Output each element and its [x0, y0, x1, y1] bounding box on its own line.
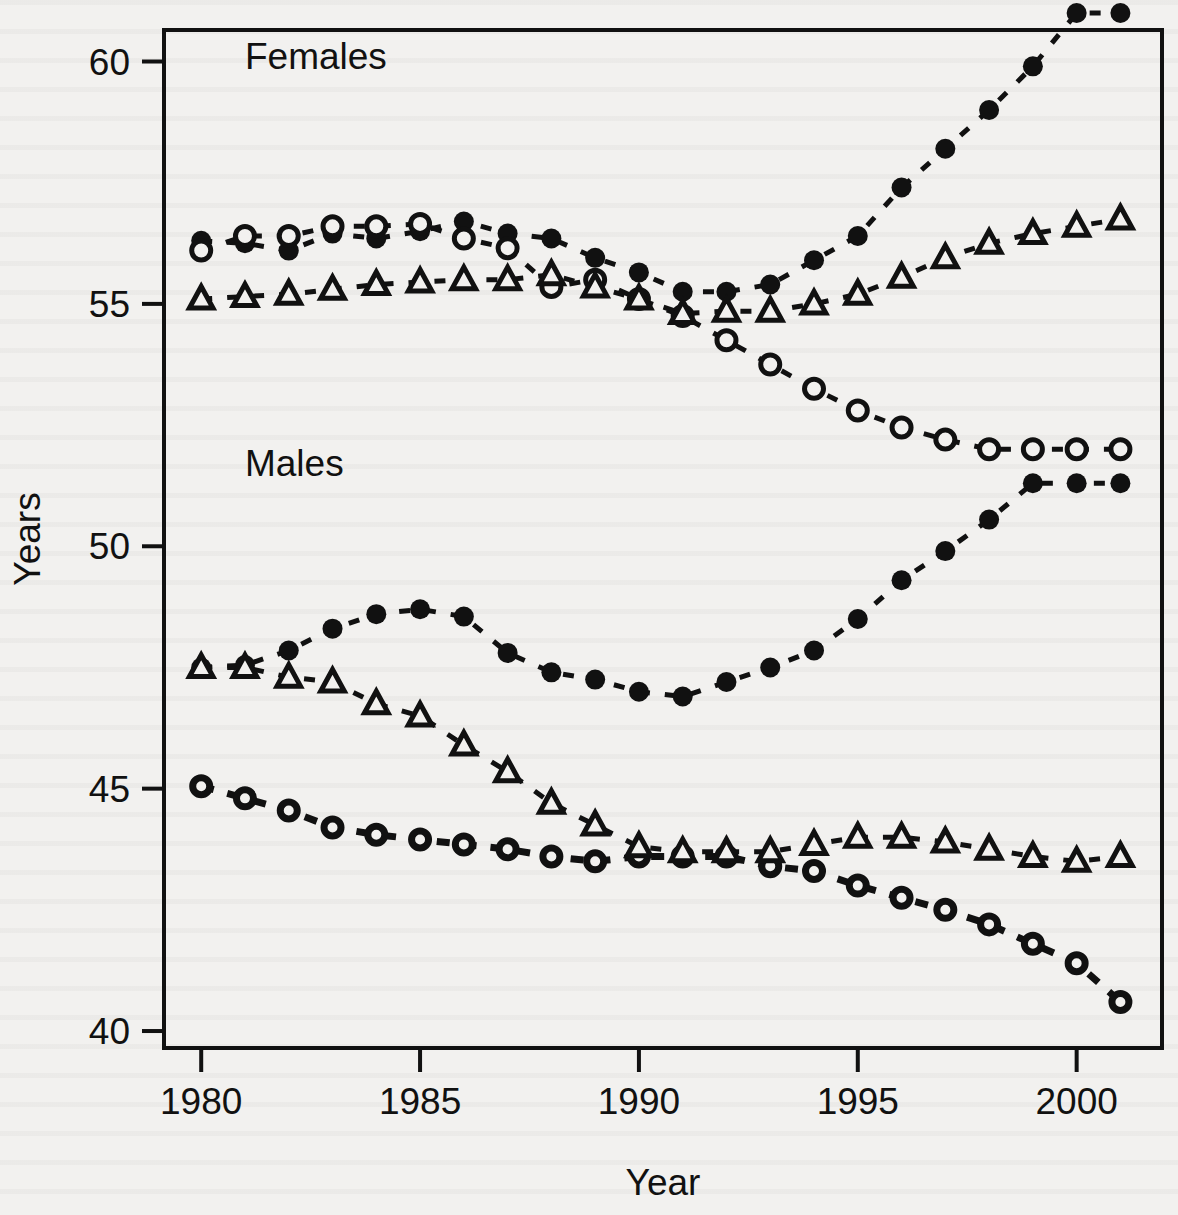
marker-filled-circle: [629, 262, 649, 282]
marker-filled-circle: [804, 250, 824, 270]
marker-open-circle: [235, 227, 254, 246]
marker-open-triangle: [1065, 214, 1089, 236]
marker-open-circle: [543, 848, 560, 865]
marker-filled-circle: [848, 609, 868, 629]
marker-open-circle: [499, 841, 516, 858]
marker-filled-circle: [848, 226, 868, 246]
marker-open-circle: [1023, 440, 1042, 459]
marker-open-triangle: [1109, 207, 1133, 229]
marker-open-triangle: [452, 733, 476, 755]
x-tick-label: 2000: [1035, 1081, 1117, 1122]
marker-filled-circle: [454, 607, 474, 627]
plot-frame: [164, 30, 1162, 1048]
marker-open-circle: [761, 355, 780, 374]
marker-open-triangle: [496, 267, 519, 289]
marker-open-circle: [980, 440, 999, 459]
marker-open-triangle: [758, 299, 782, 321]
marker-filled-circle: [979, 100, 999, 120]
marker-open-circle: [587, 853, 604, 870]
marker-open-circle: [1112, 993, 1129, 1010]
marker-filled-circle: [935, 541, 955, 561]
marker-open-circle: [1111, 440, 1130, 459]
marker-filled-circle: [585, 670, 605, 690]
marker-open-circle: [368, 826, 385, 843]
chart-canvas: 404550556019801985199019952000YearYearsF…: [0, 0, 1178, 1215]
y-tick-label: 40: [89, 1011, 130, 1052]
marker-filled-circle: [366, 604, 386, 624]
y-tick-label: 60: [89, 42, 130, 83]
marker-open-circle: [849, 877, 866, 894]
marker-open-circle: [806, 863, 823, 880]
marker-open-circle: [1067, 440, 1086, 459]
marker-open-circle: [892, 418, 911, 437]
marker-filled-circle: [935, 139, 955, 159]
marker-open-triangle: [496, 759, 519, 781]
marker-open-triangle: [1109, 844, 1133, 866]
marker-open-circle: [324, 819, 341, 836]
marker-open-circle: [411, 214, 430, 233]
marker-filled-circle: [1067, 3, 1087, 23]
marker-open-circle: [893, 889, 910, 906]
marker-filled-circle: [410, 599, 430, 619]
marker-open-triangle: [583, 813, 607, 835]
marker-open-circle: [848, 401, 867, 420]
marker-filled-circle: [979, 510, 999, 530]
marker-filled-circle: [541, 662, 561, 682]
marker-filled-circle: [279, 640, 299, 660]
x-axis-title: Year: [626, 1162, 701, 1203]
marker-filled-circle: [629, 682, 649, 702]
marker-open-triangle: [671, 301, 695, 323]
marker-open-circle: [1068, 955, 1085, 972]
marker-open-triangle: [452, 267, 476, 289]
marker-filled-circle: [760, 275, 780, 295]
marker-filled-circle: [1023, 473, 1043, 493]
series-5: [193, 778, 1129, 1011]
x-tick-label: 1995: [817, 1081, 899, 1122]
males-label: Males: [245, 443, 344, 484]
marker-filled-circle: [892, 570, 912, 590]
marker-open-triangle: [758, 839, 782, 861]
marker-filled-circle: [760, 657, 780, 677]
marker-open-triangle: [627, 287, 651, 309]
marker-open-circle: [937, 901, 954, 918]
marker-filled-circle: [1023, 56, 1043, 76]
marker-open-triangle: [627, 834, 651, 856]
marker-filled-circle: [1067, 473, 1087, 493]
marker-open-circle: [936, 430, 955, 449]
marker-filled-circle: [541, 228, 561, 248]
marker-open-triangle: [321, 277, 345, 299]
y-tick-label: 50: [89, 526, 130, 567]
marker-open-triangle: [540, 262, 564, 284]
marker-open-circle: [367, 217, 386, 236]
marker-open-triangle: [408, 703, 432, 725]
x-tick-label: 1990: [598, 1081, 680, 1122]
x-tick-label: 1985: [379, 1081, 461, 1122]
marker-open-circle: [981, 916, 998, 933]
marker-filled-circle: [1110, 3, 1130, 23]
marker-open-triangle: [671, 839, 695, 861]
marker-open-triangle: [802, 832, 826, 854]
marker-open-circle: [236, 790, 253, 807]
marker-open-circle: [454, 229, 473, 248]
marker-open-circle: [279, 227, 298, 246]
marker-open-triangle: [321, 670, 345, 692]
marker-open-triangle: [977, 231, 1001, 253]
females-label: Females: [245, 36, 387, 77]
chart-figure: 404550556019801985199019952000YearYearsF…: [0, 0, 1178, 1215]
marker-filled-circle: [804, 640, 824, 660]
marker-open-circle: [193, 778, 210, 795]
marker-open-circle: [455, 836, 472, 853]
marker-filled-circle: [892, 178, 912, 198]
series-line: [201, 224, 1120, 449]
marker-open-circle: [412, 831, 429, 848]
marker-open-triangle: [1065, 849, 1089, 871]
y-tick-label: 45: [89, 769, 130, 810]
x-tick-label: 1980: [160, 1081, 242, 1122]
marker-filled-circle: [585, 248, 605, 268]
marker-open-circle: [1024, 935, 1041, 952]
marker-filled-circle: [673, 687, 693, 707]
marker-open-circle: [717, 331, 736, 350]
marker-open-triangle: [189, 287, 213, 309]
marker-open-triangle: [233, 284, 256, 306]
marker-open-triangle: [408, 270, 432, 292]
